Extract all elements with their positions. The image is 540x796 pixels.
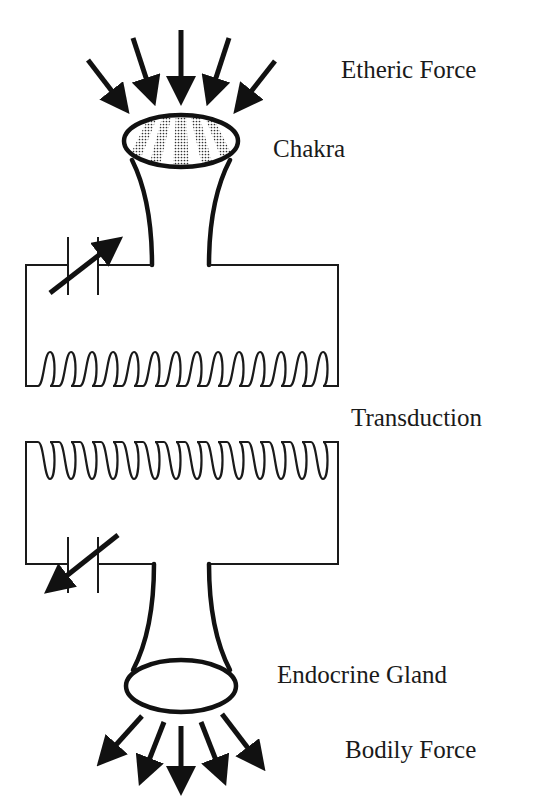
lower-circuit-wire-right bbox=[209, 442, 338, 564]
lower-inductor-coil bbox=[38, 442, 328, 479]
outgoing-arrow-icon bbox=[144, 722, 164, 773]
label-chakra: Chakra bbox=[273, 135, 345, 162]
outgoing-arrow-icon bbox=[201, 722, 221, 773]
upper-inductor-coil bbox=[38, 352, 328, 386]
incoming-arrow-icon bbox=[88, 60, 121, 103]
etheric-force-arrows bbox=[88, 30, 275, 103]
label-bodily-force: Bodily Force bbox=[345, 736, 476, 763]
variable-capacitor-arrow-icon bbox=[55, 535, 118, 585]
outgoing-arrow-icon bbox=[222, 714, 257, 760]
upper-circuit bbox=[26, 237, 338, 386]
label-etheric-force: Etheric Force bbox=[341, 56, 476, 83]
incoming-arrow-icon bbox=[242, 61, 275, 103]
endocrine-gland-opening bbox=[126, 660, 236, 712]
label-endocrine-gland: Endocrine Gland bbox=[277, 661, 448, 688]
incoming-arrow-icon bbox=[133, 38, 151, 93]
label-transduction: Transduction bbox=[351, 404, 483, 431]
funnel-left-side bbox=[133, 564, 154, 670]
funnel-right-side bbox=[209, 564, 230, 670]
incoming-arrow-icon bbox=[211, 38, 229, 93]
lower-circuit bbox=[26, 442, 338, 593]
variable-capacitor-arrow-icon bbox=[50, 245, 112, 293]
funnel-left-side bbox=[132, 160, 152, 265]
bodily-force-arrows bbox=[106, 714, 257, 782]
chakra-funnel bbox=[124, 114, 238, 265]
outgoing-arrow-icon bbox=[106, 716, 142, 756]
chakra-transduction-diagram: Etheric Force Chakra Transduction Endocr… bbox=[0, 0, 540, 796]
upper-circuit-wire-right bbox=[209, 265, 338, 386]
endocrine-funnel bbox=[126, 564, 236, 712]
funnel-right-side bbox=[209, 160, 230, 265]
